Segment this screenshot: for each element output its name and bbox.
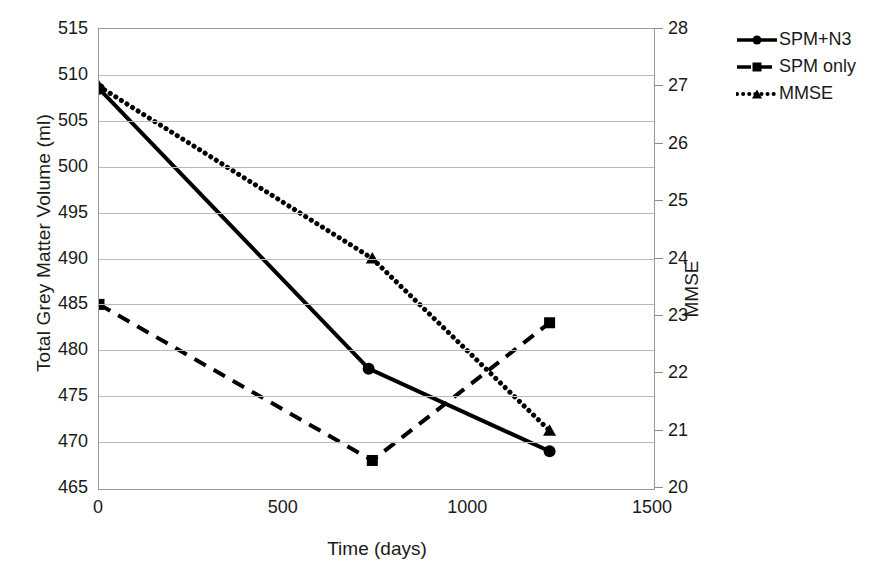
data-point-marker [367, 455, 378, 466]
y-axis-left-tick-label: 470 [58, 432, 88, 450]
y-axis-left-tick-label: 500 [58, 157, 88, 175]
legend-label: MMSE [779, 83, 833, 104]
x-axis-ticks: 050010001500 [98, 498, 655, 528]
y-axis-left-tick-label: 485 [58, 294, 88, 312]
series-line [99, 304, 550, 460]
x-axis-tick-label: 500 [268, 498, 298, 516]
legend-marker-square-icon [753, 62, 762, 71]
legend-swatch [736, 31, 778, 49]
legend-label: SPM+N3 [779, 29, 852, 50]
plot-area [98, 28, 655, 490]
y-axis-left-tick-label: 495 [58, 203, 88, 221]
y-axis-right-tick-label: 26 [668, 134, 688, 152]
y-axis-right-tickmark [655, 315, 663, 316]
legend-item-spm-only[interactable]: SPM only [736, 53, 882, 80]
y-axis-left-tick-label: 480 [58, 340, 88, 358]
gridline [99, 396, 654, 397]
y-axis-right-tick-label: 20 [668, 478, 688, 496]
gridline [99, 259, 654, 260]
data-point-marker [363, 363, 375, 375]
x-axis-tick-label: 0 [93, 498, 103, 516]
y-axis-right-tick-label: 22 [668, 363, 688, 381]
legend-swatch [736, 58, 778, 76]
gridline [99, 304, 654, 305]
y-axis-right-tick-label: 23 [668, 306, 688, 324]
gridline [99, 350, 654, 351]
x-axis-tick-label: 1500 [632, 498, 672, 516]
y-axis-left-tick-label: 490 [58, 249, 88, 267]
y-axis-right-tick-label: 21 [668, 421, 688, 439]
legend-swatch [736, 85, 778, 103]
y-axis-right-tickmark [655, 28, 663, 29]
y-axis-right-ticks: 202122232425262728 [668, 28, 718, 490]
gridline [99, 167, 654, 168]
y-axis-right-tick-label: 27 [668, 76, 688, 94]
legend-item-spm-n3[interactable]: SPM+N3 [736, 26, 882, 53]
gridline [99, 75, 654, 76]
y-axis-right-tick-label: 25 [668, 191, 688, 209]
x-axis-tick-label: 1000 [447, 498, 487, 516]
legend-marker-triangle-icon [752, 89, 762, 98]
data-point-marker [544, 317, 555, 328]
y-axis-right-tick-label: 28 [668, 19, 688, 37]
gridline [99, 121, 654, 122]
y-axis-left-ticks: 465470475480485490495500505510515 [40, 28, 88, 490]
chart-legend: SPM+N3SPM onlyMMSE [736, 26, 882, 107]
y-axis-right-tickmark [655, 258, 663, 259]
x-axis-title: Time (days) [98, 538, 656, 560]
y-axis-left-tick-label: 515 [58, 19, 88, 37]
y-axis-right-tickmark [655, 200, 663, 201]
y-axis-right-tick-label: 24 [668, 249, 688, 267]
legend-label: SPM only [779, 56, 856, 77]
y-axis-left-tick-label: 510 [58, 65, 88, 83]
y-axis-right-tickmark [655, 143, 663, 144]
data-point-marker [544, 445, 556, 457]
series-spm-n3 [99, 83, 556, 458]
y-axis-right-tickmark [655, 487, 663, 488]
y-axis-right-tickmark [655, 85, 663, 86]
legend-marker-circle-icon [753, 35, 762, 44]
gridline [99, 213, 654, 214]
chart-figure: Total Grey Matter Volume (ml) MMSE Time … [0, 0, 882, 581]
gridline [99, 442, 654, 443]
y-axis-right-tickmark [655, 430, 663, 431]
y-axis-right-tickmark [655, 372, 663, 373]
y-axis-left-tick-label: 505 [58, 111, 88, 129]
y-axis-left-tick-label: 465 [58, 478, 88, 496]
legend-item-mmse[interactable]: MMSE [736, 80, 882, 107]
y-axis-left-tick-label: 475 [58, 386, 88, 404]
